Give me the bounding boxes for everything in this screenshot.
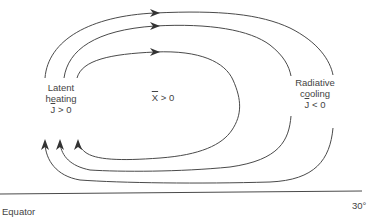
latent-line1: Latent bbox=[36, 82, 86, 93]
equator-baseline bbox=[0, 191, 362, 194]
middle-left-arrow-icon bbox=[56, 139, 64, 150]
radiative-cooling-label: Radiative cooling J < 0 bbox=[284, 77, 346, 110]
latent-relation: J > 0 bbox=[36, 104, 86, 115]
latent-line2: heating bbox=[36, 93, 86, 104]
latent-heating-label: Latent heating J > 0 bbox=[36, 82, 86, 115]
radiative-line1: Radiative bbox=[284, 77, 346, 88]
interior-x-label: X > 0 bbox=[140, 92, 186, 103]
equator-label: Equator bbox=[2, 206, 35, 217]
radiative-relation-text: < 0 bbox=[309, 99, 325, 110]
latent-relation-text: > 0 bbox=[55, 104, 71, 115]
inner-left-arrow-icon bbox=[74, 139, 82, 150]
radiative-line2: cooling bbox=[284, 88, 346, 99]
inner-circulation-loop bbox=[77, 52, 240, 160]
radiative-relation: J < 0 bbox=[284, 99, 346, 110]
interior-relation-text: > 0 bbox=[158, 92, 174, 103]
latitude-30-label: 30° bbox=[352, 200, 366, 211]
